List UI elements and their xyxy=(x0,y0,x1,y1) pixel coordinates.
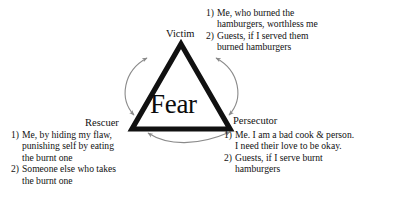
list-line: the burnt one xyxy=(22,175,73,186)
list-line: Me. I am a bad cook & person. xyxy=(235,129,354,140)
list-line: Me, by hiding my flaw, xyxy=(22,129,112,140)
list-item-continuation: I need their love to be okay. xyxy=(224,140,354,151)
list-item-continuation: the burnt one xyxy=(11,175,116,186)
center-label-fear: Fear xyxy=(150,91,197,118)
list-item: 1)Me, who burned the xyxy=(206,7,318,18)
list-line: burned hamburgers xyxy=(217,41,291,52)
node-label-persecutor: Persecutor xyxy=(233,115,277,126)
list-line: I need their love to be okay. xyxy=(235,140,342,151)
list-item-continuation: hamburgers xyxy=(224,163,354,174)
list-marker: 2) xyxy=(11,163,22,174)
node-label-victim: Victim xyxy=(166,28,195,39)
list-line: hamburgers xyxy=(235,163,280,174)
list-item: 2)Guests, if I serve burnt xyxy=(224,152,354,163)
node-label-rescuer: Rescuer xyxy=(85,117,119,128)
list-line: Me, who burned the xyxy=(217,7,294,18)
victim-text-block: 1)Me, who burned the hamburgers, worthle… xyxy=(206,7,318,53)
list-item: 2)Guests, if I served them xyxy=(206,30,318,41)
list-item-continuation: burned hamburgers xyxy=(206,41,318,52)
list-item: 1)Me, by hiding my flaw, xyxy=(11,129,116,140)
list-marker: 2) xyxy=(224,152,235,163)
list-marker: 2) xyxy=(206,30,217,41)
list-marker: 1) xyxy=(206,7,217,18)
list-line: Guests, if I serve burnt xyxy=(235,152,323,163)
persecutor-text-block: 1)Me. I am a bad cook & person. I need t… xyxy=(224,129,354,175)
list-item: 2)Someone else who takes xyxy=(11,163,116,174)
list-item: 1)Me. I am a bad cook & person. xyxy=(224,129,354,140)
list-line: the burnt one xyxy=(22,152,73,163)
list-line: Someone else who takes xyxy=(22,163,116,174)
list-item-continuation: the burnt one xyxy=(11,152,116,163)
rescuer-text-block: 1)Me, by hiding my flaw, punishing self … xyxy=(11,129,116,186)
list-line: hamburgers, worthless me xyxy=(217,18,318,29)
list-marker: 1) xyxy=(224,129,235,140)
list-item-continuation: hamburgers, worthless me xyxy=(206,18,318,29)
list-line: punishing self by eating xyxy=(22,140,114,151)
arrow-rescuer-persecutor xyxy=(148,132,230,143)
list-marker: 1) xyxy=(11,129,22,140)
drama-triangle-diagram: Fear Victim Rescuer Persecutor 1)Me, who… xyxy=(0,0,401,205)
list-line: Guests, if I served them xyxy=(217,30,308,41)
list-item-continuation: punishing self by eating xyxy=(11,140,116,151)
